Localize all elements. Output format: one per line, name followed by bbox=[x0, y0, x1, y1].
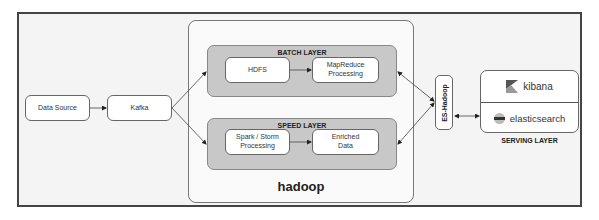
edge-kafka-batch bbox=[172, 72, 206, 108]
edge-eshadoop-batch bbox=[398, 72, 434, 101]
connector-lines bbox=[0, 0, 599, 220]
edge-eshadoop-speed bbox=[398, 103, 434, 144]
edge-kafka-speed bbox=[172, 108, 206, 144]
